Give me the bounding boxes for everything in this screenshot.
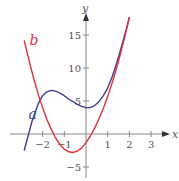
x-tick-label: 3 [148,139,154,150]
y-tick-label: −5 [66,162,81,173]
curve-label-b: b [30,32,39,48]
function-graph: xy −2−1123−551015 ab [0,0,179,181]
x-tick-label: 1 [105,139,111,150]
y-tick-label: 15 [68,30,81,41]
curve-label-a: a [28,106,36,122]
axes: xy [10,2,179,178]
ticks: −2−1123−551015 [35,30,154,173]
x-tick-label: −2 [35,139,50,150]
x-axis-label: x [172,128,179,141]
y-tick-label: 10 [68,63,81,74]
x-tick-label: 2 [126,139,132,150]
y-axis-label: y [81,2,89,15]
x-axis-arrow-icon [162,131,170,137]
